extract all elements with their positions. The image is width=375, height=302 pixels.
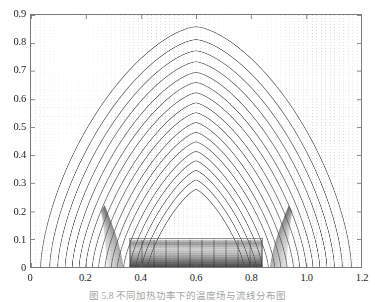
contour-plot-canvas [31,15,361,267]
y-tick-label: 0.3 [0,178,26,189]
y-tick-label: 0.4 [0,150,26,161]
y-tick-label: 0.6 [0,94,26,105]
y-tick-label: 0.8 [0,37,26,48]
x-tick-label: 0.2 [65,273,105,284]
y-tick-label: 0 [0,263,26,274]
y-tick-label: 0.1 [0,235,26,246]
x-tick-label: 1.0 [287,273,327,284]
y-tick-label: 0.9 [0,9,26,20]
y-tick-label: 0.2 [0,207,26,218]
figure-caption: 图 5.8 不同加热功率下的温度场与流线分布图 [0,288,375,302]
y-axis-tick-labels: 00.10.20.30.40.50.60.70.80.9 [0,0,28,296]
plot-area [30,14,362,268]
x-tick-label: 0.6 [176,273,216,284]
x-tick-label: 1.2 [342,273,375,284]
x-tick-label: 0.8 [231,273,271,284]
y-tick-label: 0.7 [0,65,26,76]
x-tick-label: 0.4 [121,273,161,284]
y-tick-label: 0.5 [0,122,26,133]
x-tick-label: 0 [10,273,50,284]
